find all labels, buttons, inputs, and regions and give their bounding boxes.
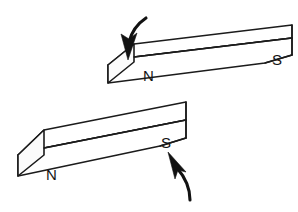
arrow-bottom [168, 152, 190, 200]
magnet-bottom-south-label: S [161, 134, 171, 151]
magnet-top-north-label: N [143, 67, 154, 84]
diagram-canvas: N S N S [0, 0, 298, 212]
magnet-bottom: N S [18, 102, 186, 183]
arrow-bottom-tail [177, 168, 190, 200]
magnet-top-south-label: S [272, 51, 282, 68]
magnet-diagram: N S N S [0, 0, 298, 212]
magnet-bottom-north-label: N [46, 166, 57, 183]
